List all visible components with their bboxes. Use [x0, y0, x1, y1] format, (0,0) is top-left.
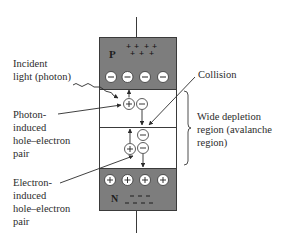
photon-line-4: pair: [13, 147, 70, 160]
svg-text:+: +: [149, 48, 154, 58]
incident-line-1: Incident: [13, 57, 71, 70]
depletion-brace: [184, 91, 191, 165]
svg-text:+: +: [139, 48, 144, 58]
n-label: N: [111, 193, 119, 204]
svg-text:+: +: [130, 48, 135, 58]
collision-text: Collision: [198, 68, 237, 81]
incident-light-label: Incident light (photon): [13, 57, 71, 83]
electron-induced-label: Electron- induced hole–electron pair: [13, 176, 70, 228]
incident-line-2: light (photon): [13, 70, 71, 83]
wide-line-3: region): [197, 136, 272, 149]
photon-line-1: Photon-: [13, 108, 70, 121]
photon-line-2: induced: [13, 121, 70, 134]
p-label: P: [109, 48, 116, 60]
photon-induced-label: Photon- induced hole–electron pair: [13, 108, 70, 160]
electron-line-4: pair: [13, 215, 70, 228]
wide-depletion-label: Wide depletion region (avalanche region): [197, 110, 272, 149]
electron-line-2: induced: [13, 189, 70, 202]
avalanche-photodiode-diagram: P ++++ +++: [0, 0, 291, 242]
wide-line-1: Wide depletion: [197, 110, 272, 123]
collision-label: Collision: [198, 68, 237, 81]
photon-line-3: hole–electron: [13, 134, 70, 147]
electron-line-3: hole–electron: [13, 202, 70, 215]
wide-line-2: region (avalanche: [197, 123, 272, 136]
electron-line-1: Electron-: [13, 176, 70, 189]
